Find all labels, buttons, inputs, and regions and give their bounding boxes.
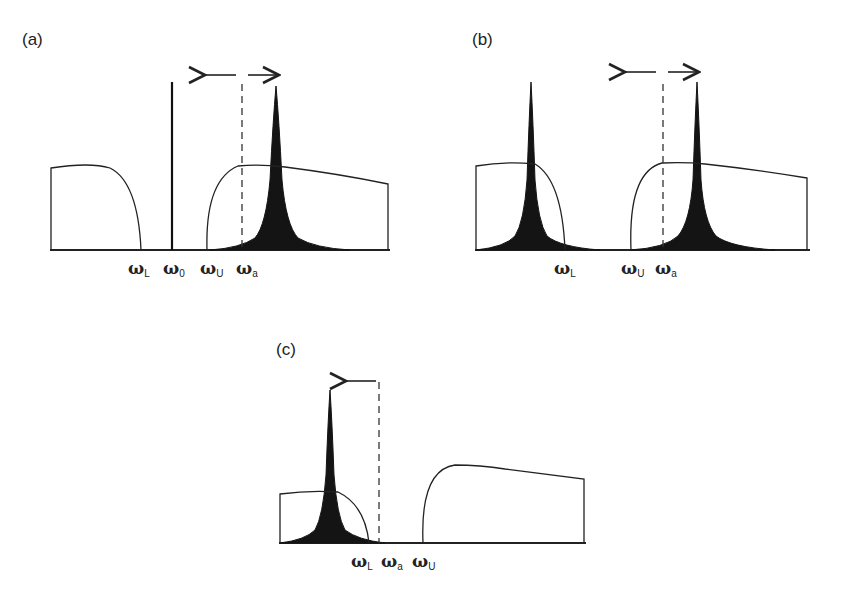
freq-label-omega-a: ωa [236,258,258,279]
panel-c [279,381,586,543]
freq-label-omega-a: ωa [381,551,403,572]
lower-band-curve [51,165,141,250]
panel-b [475,72,810,250]
resonance-peak [210,86,350,250]
freq-label-omega-0: ω0 [163,258,185,279]
panel-a [50,75,390,250]
upper-band-curve [631,163,807,250]
resonance-peak [280,390,385,543]
freq-label-omega-L: ωL [128,258,150,279]
freq-label-omega-a: ωa [655,258,677,279]
freq-label-omega-L: ωL [554,258,576,279]
resonance-peak-right [630,82,775,250]
freq-label-omega-U: ωU [621,258,644,279]
upper-band-curve [423,465,584,543]
spectrum-diagram [0,0,850,598]
freq-label-omega-L: ωL [351,551,373,572]
freq-label-omega-U: ωU [200,258,223,279]
freq-label-omega-U: ωU [412,551,435,572]
